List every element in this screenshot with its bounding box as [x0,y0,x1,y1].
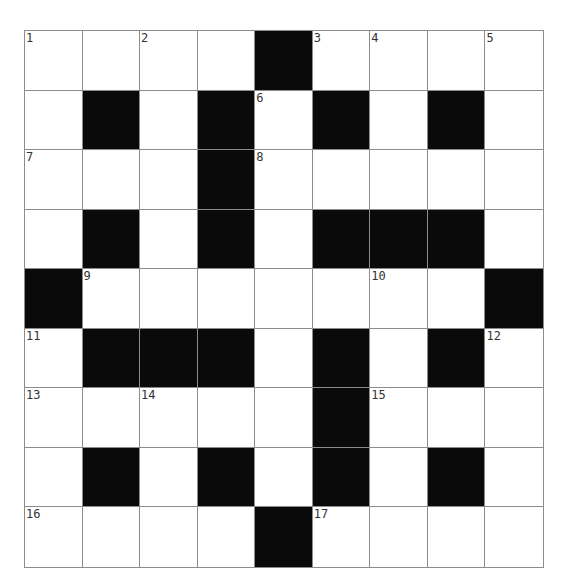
block-cell [313,210,371,270]
answer-cell[interactable] [198,269,256,329]
answer-cell[interactable] [485,448,543,508]
block-cell [313,329,371,389]
answer-cell[interactable] [485,91,543,151]
answer-cell[interactable] [140,269,198,329]
block-cell [198,91,256,151]
clue-number: 16 [26,508,40,520]
answer-cell[interactable]: 11 [25,329,83,389]
clue-number: 13 [26,389,40,401]
block-cell [313,91,371,151]
clue-number: 2 [141,32,148,44]
block-cell [198,150,256,210]
answer-cell[interactable] [428,388,486,448]
answer-cell[interactable] [255,329,313,389]
answer-cell[interactable] [485,507,543,567]
answer-cell[interactable] [428,150,486,210]
clue-number: 8 [256,151,263,163]
block-cell [83,210,141,270]
block-cell [370,210,428,270]
answer-cell[interactable] [428,269,486,329]
answer-cell[interactable] [313,269,371,329]
block-cell [83,448,141,508]
answer-cell[interactable] [428,31,486,91]
answer-cell[interactable] [25,210,83,270]
answer-cell[interactable] [140,448,198,508]
block-cell [83,91,141,151]
answer-cell[interactable]: 9 [83,269,141,329]
answer-cell[interactable] [370,329,428,389]
answer-cell[interactable] [255,448,313,508]
answer-cell[interactable]: 1 [25,31,83,91]
clue-number: 11 [26,330,40,342]
answer-cell[interactable] [198,507,256,567]
answer-cell[interactable]: 15 [370,388,428,448]
answer-cell[interactable] [140,150,198,210]
block-cell [83,329,141,389]
answer-cell[interactable] [485,388,543,448]
answer-cell[interactable] [140,91,198,151]
answer-cell[interactable] [140,507,198,567]
block-cell [485,269,543,329]
answer-cell[interactable]: 4 [370,31,428,91]
answer-cell[interactable] [370,507,428,567]
clue-number: 17 [314,508,328,520]
answer-cell[interactable]: 5 [485,31,543,91]
answer-cell[interactable] [485,210,543,270]
block-cell [198,329,256,389]
answer-cell[interactable] [255,210,313,270]
answer-cell[interactable] [370,91,428,151]
answer-cell[interactable] [313,150,371,210]
clue-number: 15 [371,389,385,401]
answer-cell[interactable] [83,388,141,448]
answer-cell[interactable] [255,269,313,329]
answer-cell[interactable] [140,210,198,270]
answer-cell[interactable] [25,91,83,151]
block-cell [313,388,371,448]
answer-cell[interactable]: 3 [313,31,371,91]
clue-number: 7 [26,151,33,163]
answer-cell[interactable] [198,388,256,448]
answer-cell[interactable] [370,150,428,210]
block-cell [25,269,83,329]
answer-cell[interactable]: 7 [25,150,83,210]
answer-cell[interactable] [370,448,428,508]
block-cell [255,31,313,91]
clue-number: 1 [26,32,33,44]
answer-cell[interactable] [255,388,313,448]
block-cell [140,329,198,389]
answer-cell[interactable] [83,507,141,567]
answer-cell[interactable]: 12 [485,329,543,389]
block-cell [198,210,256,270]
block-cell [198,448,256,508]
clue-number: 12 [486,330,500,342]
answer-cell[interactable] [485,150,543,210]
answer-cell[interactable]: 13 [25,388,83,448]
block-cell [428,91,486,151]
answer-cell[interactable]: 16 [25,507,83,567]
crossword-grid: 1234567891011121314151617 [24,30,544,568]
clue-number: 9 [84,270,91,282]
clue-number: 6 [256,92,263,104]
answer-cell[interactable]: 2 [140,31,198,91]
block-cell [255,507,313,567]
answer-cell[interactable]: 6 [255,91,313,151]
answer-cell[interactable]: 10 [370,269,428,329]
clue-number: 10 [371,270,385,282]
block-cell [428,448,486,508]
answer-cell[interactable] [428,507,486,567]
block-cell [428,329,486,389]
answer-cell[interactable] [198,31,256,91]
clue-number: 14 [141,389,155,401]
answer-cell[interactable] [83,150,141,210]
block-cell [313,448,371,508]
answer-cell[interactable] [25,448,83,508]
answer-cell[interactable]: 17 [313,507,371,567]
answer-cell[interactable] [83,31,141,91]
clue-number: 4 [371,32,378,44]
block-cell [428,210,486,270]
clue-number: 3 [314,32,321,44]
answer-cell[interactable]: 14 [140,388,198,448]
clue-number: 5 [486,32,493,44]
answer-cell[interactable]: 8 [255,150,313,210]
